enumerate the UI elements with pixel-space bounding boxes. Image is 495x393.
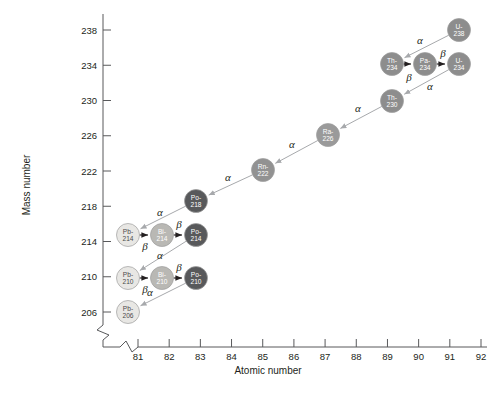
- nuclide-mass-number: 214: [190, 235, 201, 242]
- nuclide-mass-number: 222: [257, 170, 268, 177]
- beta-decay-label: β: [405, 71, 412, 83]
- y-axis-title: Mass number: [21, 154, 32, 215]
- y-tick-label: 206: [81, 307, 97, 318]
- nuclide-mass-number: 226: [322, 135, 333, 142]
- nuclide-symbol: Bi-: [158, 228, 166, 235]
- nuclide-symbol: Rn-: [258, 163, 269, 170]
- nuclide-mass-number: 234: [419, 64, 430, 71]
- y-tick-label: 222: [81, 166, 97, 177]
- nuclide-symbol: Pb-: [123, 305, 133, 312]
- y-axis: 206210214218222226230234238: [81, 14, 111, 347]
- nuclide-mass-number: 234: [453, 64, 464, 71]
- nuclide-node-po210[interactable]: Po-210: [185, 267, 208, 290]
- alpha-decay-label: α: [225, 171, 231, 183]
- nuclide-symbol: Th-: [387, 57, 397, 64]
- alpha-decay-label: α: [289, 138, 295, 150]
- x-tick-label: 89: [382, 351, 393, 362]
- decay-series-plot: 206210214218222226230234238 818283848586…: [0, 0, 495, 393]
- nuclide-symbol: Po-: [191, 271, 201, 278]
- nuclide-mass-number: 214: [122, 235, 133, 242]
- y-tick-label: 218: [81, 201, 97, 212]
- alpha-decay-arrow: [275, 140, 318, 163]
- x-tick-label: 92: [476, 351, 487, 362]
- nuclide-symbol: Bi-: [158, 271, 166, 278]
- beta-decay-label: β: [439, 47, 446, 59]
- x-axis-title: Atomic number: [234, 365, 302, 376]
- nuclide-nodes: U-238Th-234Pa-234U-234Th-230Ra-226Rn-222…: [117, 19, 471, 324]
- x-tick-label: 84: [226, 351, 237, 362]
- alpha-decay-label: α: [157, 206, 163, 218]
- alpha-decay-label: α: [157, 249, 163, 261]
- nuclide-node-po218[interactable]: Po-218: [185, 190, 208, 213]
- y-tick-label: 238: [81, 25, 97, 36]
- nuclide-symbol: Th-: [387, 94, 397, 101]
- nuclide-mass-number: 218: [190, 201, 201, 208]
- y-axis-break: [97, 321, 109, 347]
- nuclide-node-th234[interactable]: Th-234: [381, 53, 404, 76]
- nuclide-node-pb206[interactable]: Pb-206: [117, 301, 140, 324]
- y-axis-ticks: [103, 30, 111, 312]
- nuclide-symbol: Pb-: [123, 228, 133, 235]
- nuclide-node-u238[interactable]: U-238: [448, 19, 471, 42]
- y-tick-label: 226: [81, 130, 97, 141]
- nuclide-mass-number: 234: [386, 64, 397, 71]
- x-tick-label: 87: [320, 351, 331, 362]
- nuclide-node-pa234[interactable]: Pa-234: [414, 53, 437, 76]
- nuclide-node-th230[interactable]: Th-230: [381, 90, 404, 113]
- decay-labels: αββαααααββαββα: [141, 34, 446, 298]
- alpha-decay-arrow: [340, 106, 381, 128]
- nuclide-symbol: Pb-: [123, 271, 133, 278]
- alpha-decay-label: α: [417, 34, 423, 46]
- nuclide-symbol: U-: [456, 57, 463, 64]
- nuclide-node-pb214[interactable]: Pb-214: [117, 224, 140, 247]
- nuclide-mass-number: 238: [453, 30, 464, 37]
- y-tick-label: 230: [81, 95, 97, 106]
- nuclide-mass-number: 206: [122, 312, 133, 319]
- x-tick-label: 85: [257, 351, 268, 362]
- nuclide-mass-number: 214: [156, 235, 167, 242]
- y-tick-label: 210: [81, 271, 97, 282]
- alpha-decay-label: α: [147, 286, 153, 298]
- nuclide-symbol: Ra-: [323, 128, 334, 135]
- x-tick-label: 83: [195, 351, 206, 362]
- x-tick-label: 90: [413, 351, 424, 362]
- nuclide-mass-number: 210: [190, 278, 201, 285]
- nuclide-symbol: Pa-: [420, 57, 430, 64]
- beta-decay-label: β: [141, 240, 148, 252]
- nuclide-node-bi210[interactable]: Bi-210: [151, 267, 174, 290]
- nuclide-node-ra226[interactable]: Ra-226: [317, 124, 340, 147]
- beta-decay-label: β: [175, 218, 182, 230]
- y-tick-label: 214: [81, 236, 97, 247]
- x-axis-tick-labels: 818283848586878889909192: [133, 351, 487, 362]
- x-axis-line: [120, 341, 487, 352]
- x-tick-label: 86: [289, 351, 300, 362]
- x-tick-label: 91: [445, 351, 456, 362]
- x-tick-label: 81: [133, 351, 144, 362]
- nuclide-symbol: U-: [456, 23, 463, 30]
- decay-arrows: [140, 35, 449, 306]
- nuclide-node-rn222[interactable]: Rn-222: [252, 159, 275, 182]
- beta-decay-label: β: [175, 261, 182, 273]
- alpha-decay-label: α: [427, 80, 433, 92]
- nuclide-mass-number: 210: [122, 278, 133, 285]
- nuclide-node-po214[interactable]: Po-214: [185, 224, 208, 247]
- nuclide-node-bi214[interactable]: Bi-214: [151, 224, 174, 247]
- alpha-decay-label: α: [355, 102, 361, 114]
- nuclide-symbol: Po-: [191, 194, 201, 201]
- nuclide-node-pb210[interactable]: Pb-210: [117, 267, 140, 290]
- nuclide-node-u234[interactable]: U-234: [448, 53, 471, 76]
- x-tick-label: 88: [351, 351, 362, 362]
- x-axis-ticks: [138, 339, 481, 347]
- nuclide-mass-number: 210: [156, 278, 167, 285]
- x-axis: 818283848586878889909192: [103, 339, 487, 362]
- decay-series-figure: 206210214218222226230234238 818283848586…: [0, 0, 495, 393]
- nuclide-symbol: Po-: [191, 228, 201, 235]
- nuclide-mass-number: 230: [386, 101, 397, 108]
- x-tick-label: 82: [164, 351, 175, 362]
- y-tick-label: 234: [81, 60, 97, 71]
- y-axis-tick-labels: 206210214218222226230234238: [81, 25, 97, 318]
